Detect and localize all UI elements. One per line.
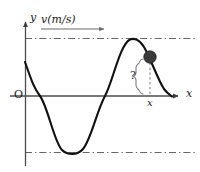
x-position-tick-label: x [147,98,153,108]
diagram-canvas [0,0,200,172]
x-axis-label: x [186,88,192,99]
marked-point-dot [144,51,156,63]
y-axis-label: y [30,12,36,23]
velocity-label: v(m/s) [41,14,76,25]
unknown-quantity-label: ? [130,70,136,81]
origin-label: O [14,89,23,100]
wave-diagram: y x O x v(m/s) ? [0,0,200,172]
